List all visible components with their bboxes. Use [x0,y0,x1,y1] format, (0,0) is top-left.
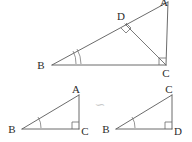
bottom-right-triangle-vertex-label-d: D [174,125,182,137]
top-triangle-edge-ba [52,2,168,65]
bottom-right-triangle-edge-bc [116,95,172,129]
geometry-figure-canvas: A B C D A B C ∽ C B D [0,0,192,142]
bottom-right-triangle-vertex-label-b: B [102,123,109,135]
bottom-left-triangle-vertex-label-a: A [72,83,80,95]
top-triangle-altitude-cd [125,24,166,65]
top-triangle-edge-ca [166,2,168,65]
bottom-left-triangle-right-angle-mark-c [72,122,79,129]
top-triangle-vertex-label-b: B [37,59,44,71]
top-triangle-vertex-label-d: D [117,10,125,22]
bottom-left-triangle-vertex-label-c: C [81,125,88,137]
top-triangle-group: A B C D [37,0,169,79]
bottom-right-triangle-right-angle-mark-d [165,122,172,129]
top-triangle-vertex-label-a: A [160,0,168,8]
bottom-left-triangle-vertex-label-b: B [8,123,15,135]
bottom-right-triangle-vertex-label-c: C [165,83,172,95]
top-triangle-vertex-label-c: C [162,67,169,79]
bottom-right-triangle-group: C B D [102,83,182,137]
geometry-figure: A B C D A B C ∽ C B D [0,0,192,142]
bottom-left-triangle-group: A B C [8,83,88,137]
similarity-symbol: ∽ [95,97,106,112]
bottom-left-triangle-edge-ba [22,95,79,129]
